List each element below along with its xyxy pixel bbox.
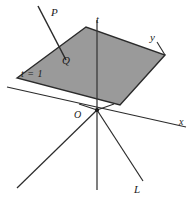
- label-point-p: P: [51, 7, 58, 18]
- label-axis-y: y: [150, 32, 155, 43]
- label-point-q: Q: [62, 55, 70, 66]
- origin-point: [95, 108, 99, 112]
- line-lower-left: [17, 110, 97, 188]
- figure-canvas: [0, 0, 194, 205]
- label-axis-t: t: [96, 15, 99, 25]
- label-origin: O: [74, 110, 81, 120]
- label-axis-x: x: [179, 117, 183, 127]
- geometry-figure: P t y Q t = 1 O x L: [0, 0, 194, 205]
- line-l: [97, 110, 143, 181]
- plane-region: [17, 27, 165, 105]
- label-line-l: L: [134, 184, 140, 195]
- label-plane-equation: t = 1: [21, 69, 43, 79]
